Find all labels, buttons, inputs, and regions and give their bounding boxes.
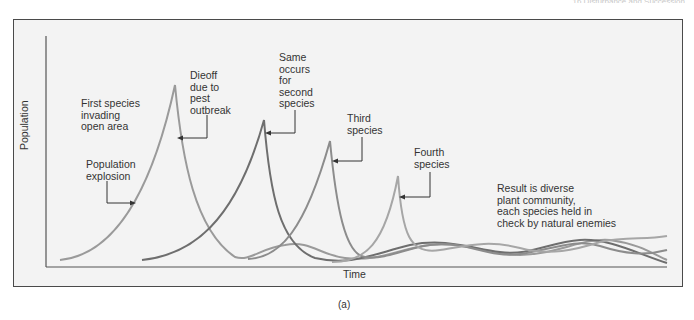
annotation-first-species: First species invading open area — [81, 98, 140, 133]
y-axis-label: Population — [18, 100, 30, 150]
x-axis-label: Time — [343, 268, 366, 280]
annotation-population-explosion: Population explosion — [86, 159, 136, 182]
annotation-result: Result is diverse plant community, each … — [497, 183, 616, 229]
annotation-fourth-species: Fourth species — [414, 147, 450, 170]
annotation-second-species: Same occurs for second species — [279, 52, 315, 110]
annotation-third-species: Third species — [347, 113, 383, 136]
figure-caption: (a) — [338, 299, 350, 310]
arrowheads — [130, 131, 405, 206]
annotation-dieoff: Dieoff due to pest outbreak — [190, 70, 231, 116]
